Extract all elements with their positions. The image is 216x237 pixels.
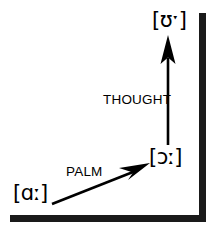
- vowel-label-mid-back: [ɔː]: [149, 147, 182, 168]
- shift-label-palm: PALM: [66, 165, 103, 179]
- palm-arrow-head: [119, 163, 150, 180]
- thought-arrow: [161, 35, 176, 145]
- vowel-shift-diagram: [ʊˑ] [ɔː] [ɑː] PALM THOUGHT: [0, 0, 216, 237]
- vowel-label-high-back: [ʊˑ]: [152, 10, 186, 31]
- shift-label-thought: THOUGHT: [103, 93, 171, 107]
- vowel-label-low-back: [ɑː]: [13, 183, 48, 204]
